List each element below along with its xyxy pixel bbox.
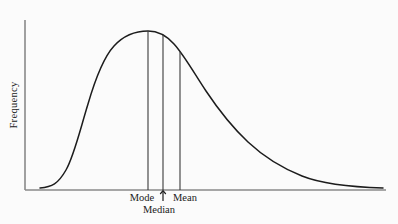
median-label: Median (143, 204, 176, 215)
mean-label: Mean (173, 192, 198, 203)
skewed-distribution-figure: Frequency Mode Mean Median (0, 0, 398, 224)
y-axis-title: Frequency (8, 81, 19, 128)
mode-label: Mode (130, 192, 155, 203)
frequency-distribution-curve (40, 31, 383, 188)
chart-canvas: Frequency Mode Mean Median (0, 0, 398, 224)
median-arrow-icon (160, 191, 166, 201)
